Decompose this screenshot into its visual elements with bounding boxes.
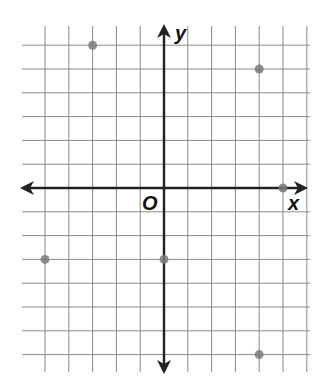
plotted-point (279, 184, 288, 193)
plotted-point (88, 41, 97, 50)
plotted-point (255, 65, 264, 74)
x-axis-label: x (288, 192, 299, 215)
origin-label: O (142, 192, 158, 215)
grid-svg (0, 0, 320, 388)
plotted-point (255, 350, 264, 359)
y-axis-label: y (175, 22, 186, 45)
plotted-point (160, 255, 169, 264)
plotted-point (41, 255, 50, 264)
coordinate-plane: y x O (0, 0, 320, 388)
